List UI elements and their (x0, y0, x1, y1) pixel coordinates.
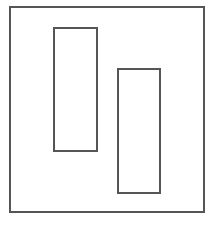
rectangle-left (53, 27, 98, 152)
rectangle-right (117, 68, 161, 194)
outer-frame (9, 6, 205, 213)
